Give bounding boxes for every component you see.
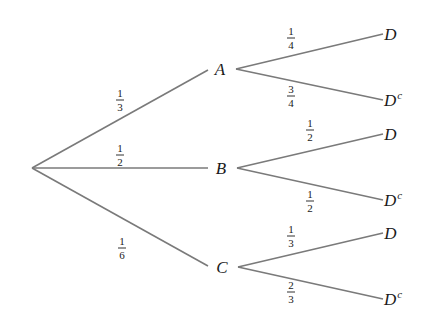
leaf-c-dc: Dc xyxy=(384,291,402,308)
numerator: 1 xyxy=(306,118,314,130)
leaf-label: D xyxy=(384,125,396,144)
node-c: C xyxy=(216,259,227,276)
denominator: 2 xyxy=(116,156,124,168)
leaf-b-d: D xyxy=(384,126,397,143)
prob-root-b: 12 xyxy=(116,143,124,168)
leaf-a-dc: Dc xyxy=(384,92,402,109)
complement-superscript: c xyxy=(397,288,402,300)
edge-a-d xyxy=(236,34,383,69)
numerator: 2 xyxy=(287,280,295,292)
prob-a-d: 14 xyxy=(287,26,295,51)
denominator: 2 xyxy=(306,202,314,214)
leaf-label: D xyxy=(384,290,396,309)
complement-superscript: c xyxy=(397,189,402,201)
numerator: 1 xyxy=(287,26,295,38)
node-a-label: A xyxy=(215,60,225,79)
numerator: 1 xyxy=(306,189,314,201)
prob-c-d: 13 xyxy=(287,224,295,249)
numerator: 1 xyxy=(287,224,295,236)
denominator: 6 xyxy=(118,249,126,261)
denominator: 2 xyxy=(306,131,314,143)
leaf-a-d: D xyxy=(384,26,397,43)
leaf-c-d: D xyxy=(384,225,397,242)
node-a: A xyxy=(215,61,225,78)
node-c-label: C xyxy=(216,258,227,277)
denominator: 3 xyxy=(287,237,295,249)
numerator: 1 xyxy=(116,88,124,100)
node-b: B xyxy=(216,160,226,177)
prob-root-a: 13 xyxy=(116,88,124,113)
prob-c-dc: 23 xyxy=(287,280,295,305)
leaf-label: D xyxy=(384,224,396,243)
leaf-label: D xyxy=(384,191,396,210)
edge-c-d xyxy=(238,233,383,267)
denominator: 3 xyxy=(116,101,124,113)
prob-b-d: 12 xyxy=(306,118,314,143)
node-b-label: B xyxy=(216,159,226,178)
leaf-label: D xyxy=(384,91,396,110)
complement-superscript: c xyxy=(397,89,402,101)
edge-c-dc xyxy=(238,267,383,299)
edge-a-dc xyxy=(236,69,383,100)
denominator: 4 xyxy=(287,97,295,109)
leaf-b-dc: Dc xyxy=(384,192,402,209)
numerator: 1 xyxy=(116,143,124,155)
prob-root-c: 16 xyxy=(118,236,126,261)
denominator: 3 xyxy=(287,293,295,305)
prob-b-dc: 12 xyxy=(306,189,314,214)
leaf-label: D xyxy=(384,25,396,44)
numerator: 1 xyxy=(118,236,126,248)
numerator: 3 xyxy=(287,84,295,96)
prob-a-dc: 34 xyxy=(287,84,295,109)
denominator: 4 xyxy=(287,39,295,51)
